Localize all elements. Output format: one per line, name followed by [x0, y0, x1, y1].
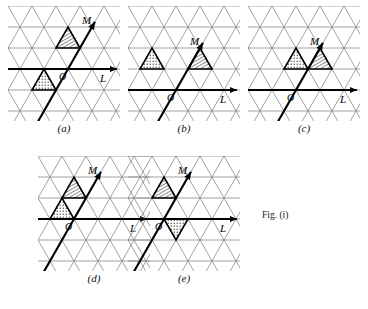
- panel-c: MLO: [248, 6, 360, 138]
- panel-label-c: (c): [248, 122, 360, 134]
- origin-label: O: [155, 221, 162, 232]
- axis-M-label: M: [81, 14, 92, 26]
- lattice-diagram-a: MLO: [8, 6, 120, 121]
- hatched-triangle: [62, 177, 86, 198]
- axis-L-label: L: [219, 222, 226, 234]
- panel-b: MLO: [128, 6, 240, 138]
- shaded-regions: [284, 48, 332, 69]
- axis-M-label: M: [189, 35, 200, 47]
- origin-label: O: [65, 221, 72, 232]
- figure-container: MLO(a)MLO(b)MLO(c)MLO(d)MLO(e)Fig. (i): [0, 0, 368, 309]
- lattice-diagram-e: MLO: [128, 156, 240, 271]
- axis-M-label: M: [87, 164, 98, 176]
- dotted-triangle: [164, 219, 188, 240]
- axis-M-label: M: [309, 35, 320, 47]
- lattice-diagram-b: MLO: [128, 6, 240, 121]
- axis-L-arrowhead: [110, 66, 117, 72]
- axis-M-label: M: [177, 164, 188, 176]
- panel-label-b: (b): [128, 122, 240, 134]
- hatched-triangle: [152, 177, 176, 198]
- lattice-grid: [8, 6, 120, 121]
- axis-L-label: L: [219, 93, 226, 105]
- panel-a: MLO: [8, 6, 120, 138]
- dotted-triangle: [284, 48, 308, 69]
- dotted-triangle: [140, 48, 164, 69]
- origin-label: O: [287, 92, 294, 103]
- axis-L-label: L: [339, 93, 346, 105]
- panel-e: MLO: [128, 156, 240, 288]
- dotted-triangle: [32, 69, 56, 90]
- hatched-triangle: [308, 48, 332, 69]
- shaded-regions: [140, 48, 212, 69]
- origin-label: O: [59, 71, 66, 82]
- origin-label: O: [167, 92, 174, 103]
- figure-caption: Fig. (i): [262, 210, 288, 220]
- axis-L-label: L: [99, 72, 106, 84]
- axis-L-arrowhead: [230, 87, 237, 93]
- panel-label-e: (e): [128, 272, 240, 284]
- hatched-triangle: [188, 48, 212, 69]
- lattice-diagram-c: MLO: [248, 6, 360, 121]
- dotted-triangle: [50, 198, 74, 219]
- panel-label-a: (a): [8, 122, 120, 134]
- axis-L-arrowhead: [350, 87, 357, 93]
- axis-L-arrowhead: [230, 216, 237, 222]
- hatched-triangle: [56, 27, 80, 48]
